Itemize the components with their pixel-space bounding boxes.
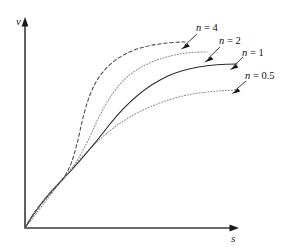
velocity-position-curve-figure: v s n = 4 n = 2 n = 1 n = 0.5: [0, 0, 288, 249]
x-axis-arrowhead: [230, 225, 240, 232]
annotation-arrow-n-0.5: [232, 81, 247, 94]
curve-n-0.5: [25, 90, 240, 228]
curve-n-1: [25, 64, 237, 228]
curve-label-n-2-value: = 2: [224, 35, 240, 46]
curve-label-n-0.5: n = 0.5: [245, 71, 275, 82]
curve-label-n-0.5-value: = 0.5: [250, 70, 274, 81]
y-axis-label: v: [16, 16, 21, 27]
curve-label-n-4: n = 4: [196, 23, 218, 34]
curve-label-n-1: n = 1: [242, 48, 264, 59]
curve-label-n-1-value: = 1: [247, 47, 263, 58]
plot-canvas: [0, 0, 288, 249]
curve-n-2: [25, 52, 207, 228]
curve-label-n-4-value: = 4: [201, 22, 217, 33]
curve-n-4: [25, 42, 186, 228]
x-axis-label: s: [231, 233, 235, 244]
y-axis-arrowhead: [22, 17, 29, 27]
annotation-arrow-n-2: [204, 47, 220, 63]
curve-label-n-2: n = 2: [219, 36, 241, 47]
